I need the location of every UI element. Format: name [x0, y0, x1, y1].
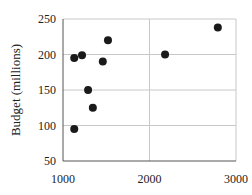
x-tick-label: 2000 — [138, 172, 162, 186]
data-point — [214, 24, 222, 32]
data-point — [70, 125, 78, 133]
y-tick-label: 100 — [38, 119, 56, 133]
y-tick-label: 250 — [38, 12, 56, 26]
data-point — [70, 54, 78, 62]
data-points — [70, 24, 222, 134]
y-tick-label: 150 — [38, 83, 56, 97]
data-point — [84, 86, 92, 94]
data-point — [99, 58, 107, 66]
x-tick-labels: 100020003000 — [51, 172, 248, 186]
y-tick-label: 200 — [38, 48, 56, 62]
data-point — [104, 36, 112, 44]
y-tick-labels: 50100150200250 — [38, 12, 56, 168]
x-tick-label: 3000 — [224, 172, 248, 186]
y-axis-label: Budget (millions) — [8, 44, 23, 136]
data-point — [78, 51, 86, 59]
data-point — [89, 104, 97, 112]
scatter-chart: 50100150200250 100020003000 Budget (mill… — [0, 0, 252, 195]
x-tick-label: 1000 — [51, 172, 75, 186]
data-point — [161, 51, 169, 59]
y-tick-label: 50 — [44, 154, 56, 168]
